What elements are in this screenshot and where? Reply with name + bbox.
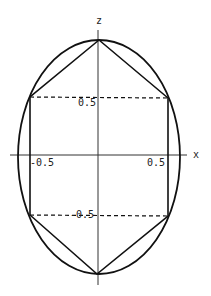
tick-z-pos: 0.5 [78,98,96,108]
dashed-line-bottom [30,215,168,216]
ellipse-hexagon-figure [0,0,211,296]
tick-z-neg: -0.5 [70,210,94,220]
z-axis-label: z [96,16,102,26]
tick-x-neg: -0.5 [30,158,54,168]
x-axis-label: x [193,150,199,160]
diagram: z x 0.5 -0.5 -0.5 0.5 [0,0,211,296]
dashed-line-top [30,97,168,98]
tick-x-pos: 0.5 [147,158,165,168]
